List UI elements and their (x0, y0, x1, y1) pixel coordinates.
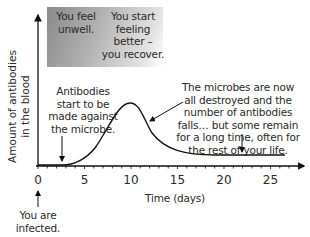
falling-arrow (150, 102, 183, 121)
x-axis-label: Time (days) (140, 192, 210, 205)
infected-annotation: You are infected. (10, 209, 66, 234)
antibody-curve (38, 103, 285, 165)
x-tick-10: 10 (123, 173, 138, 187)
x-tick-0: 0 (34, 173, 42, 187)
x-tick-20: 20 (216, 173, 231, 187)
x-tick-25: 25 (263, 173, 278, 187)
x-tick-5: 5 (81, 173, 89, 187)
x-tick-15: 15 (170, 173, 185, 187)
